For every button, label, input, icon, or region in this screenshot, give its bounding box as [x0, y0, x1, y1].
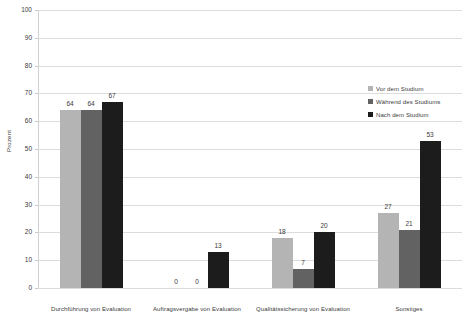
y-axis-tick [35, 205, 38, 206]
legend-label: Nach dem Studium [376, 112, 429, 118]
y-axis-tick-label: 10 [10, 257, 32, 264]
legend-swatch-icon [368, 86, 373, 91]
bar [208, 252, 229, 288]
y-axis-tick-label: 30 [10, 202, 32, 209]
y-axis-tick-label: 100 [10, 7, 32, 14]
bar [60, 110, 81, 288]
bar-value-label: 18 [272, 229, 293, 236]
legend-swatch-icon [368, 112, 373, 117]
bar [102, 102, 123, 288]
bar [293, 269, 314, 288]
y-axis-tick-label: 70 [10, 90, 32, 97]
bar-value-label: 67 [102, 93, 123, 100]
y-axis-tick [35, 149, 38, 150]
y-axis-tick [35, 93, 38, 94]
y-axis-tick [35, 288, 38, 289]
bar [399, 230, 420, 288]
legend-item[interactable]: Vor dem Studium [368, 82, 440, 95]
bar-value-label: 53 [420, 132, 441, 139]
bar-chart: Prozent 1009080706050403020100 646467001… [0, 0, 469, 319]
y-axis-tick [35, 232, 38, 233]
y-axis-tick [35, 177, 38, 178]
bar [314, 232, 335, 288]
y-axis-tick-label: 90 [10, 35, 32, 42]
y-axis-tick [35, 121, 38, 122]
y-axis-tick-label: 80 [10, 63, 32, 70]
bar [272, 238, 293, 288]
bar-value-label: 64 [81, 101, 102, 108]
legend-item[interactable]: Nach dem Studium [368, 108, 440, 121]
y-axis-tick [35, 260, 38, 261]
bar-value-label: 27 [378, 204, 399, 211]
plot-area: 1009080706050403020100 64646700131872027… [38, 10, 462, 288]
y-axis-tick [35, 66, 38, 67]
x-axis-category-label: Qualitätssicherung von Evaluation [250, 306, 356, 312]
y-axis-tick-label: 60 [10, 118, 32, 125]
bar-value-label: 13 [208, 243, 229, 250]
y-axis-tick [35, 10, 38, 11]
gridline [38, 66, 462, 67]
bar-value-label: 7 [293, 260, 314, 267]
x-axis-category-label: Sonstiges [356, 306, 462, 312]
bar [378, 213, 399, 288]
y-axis-tick-label: 40 [10, 174, 32, 181]
y-axis-tick-label: 20 [10, 229, 32, 236]
bar [81, 110, 102, 288]
bar-value-label: 21 [399, 221, 420, 228]
gridline [38, 10, 462, 11]
bar [420, 141, 441, 288]
gridline [38, 38, 462, 39]
bar-value-label: 20 [314, 223, 335, 230]
legend-item[interactable]: Während des Studiums [368, 95, 440, 108]
y-axis-tick-label: 0 [10, 285, 32, 292]
y-axis-tick-label: 50 [10, 146, 32, 153]
bar-value-label: 64 [60, 101, 81, 108]
x-axis-category-label: Durchführung von Evaluation [38, 306, 144, 312]
chart-legend: Vor dem StudiumWährend des StudiumsNach … [368, 82, 440, 121]
y-axis-tick [35, 38, 38, 39]
bar-value-label: 0 [187, 279, 208, 286]
legend-swatch-icon [368, 99, 373, 104]
bar-value-label: 0 [166, 279, 187, 286]
legend-label: Während des Studiums [376, 99, 440, 105]
x-axis-category-label: Auftragsvergabe von Evaluation [144, 306, 250, 312]
legend-label: Vor dem Studium [376, 86, 424, 92]
gridline [38, 288, 462, 289]
